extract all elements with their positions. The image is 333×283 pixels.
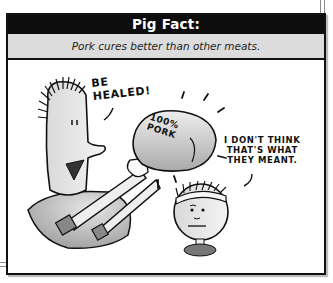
fact-text: Pork cures better than other meats.	[8, 34, 324, 60]
comic-illustration: BE HEALED! 100% PORK I DON'T THINK THAT'…	[8, 60, 324, 273]
panel-title: Pig Fact:	[8, 15, 324, 34]
pig-fact-panel: Pig Fact: Pork cures better than other m…	[6, 13, 326, 275]
background-frame-lines	[320, 0, 325, 14]
kid-speech-text: I DON'T THINK THAT'S WHAT THEY MEANT.	[224, 135, 300, 165]
comic-drawing	[8, 60, 324, 273]
